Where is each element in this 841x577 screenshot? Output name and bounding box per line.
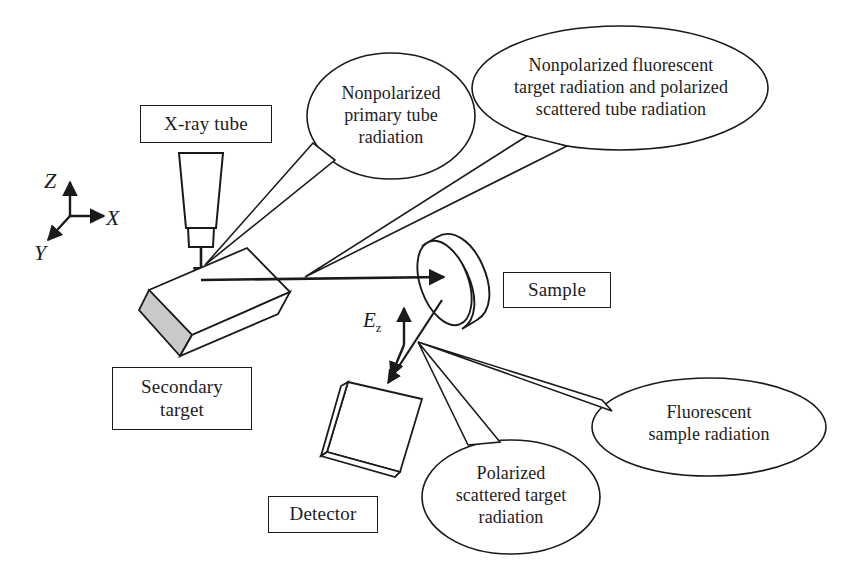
- label-text-secondary-target-line2: target: [160, 399, 204, 420]
- label-text-xray-tube: X-ray tube: [164, 113, 248, 135]
- callout-polarized-tail: [418, 342, 500, 445]
- label-box-xray-tube: X-ray tube: [140, 105, 272, 143]
- callout-primary-tube-radiation: [205, 53, 475, 265]
- xray-tube-housing: [179, 153, 223, 228]
- callout-fluor-target-bubble: [472, 26, 768, 150]
- label-text-secondary-target-line1: Secondary: [141, 376, 223, 397]
- vector-label-ez-symbol: E: [363, 308, 376, 332]
- axis-label-x: X: [106, 205, 119, 231]
- secondary-target-shape: [139, 248, 290, 356]
- xray-tube-snout: [188, 228, 214, 247]
- coordinate-axes: [48, 182, 104, 240]
- label-box-secondary-target: Secondary target: [112, 367, 252, 430]
- callout-polarized-bubble: [422, 440, 600, 554]
- callout-fluor-sample-bubble: [592, 378, 826, 476]
- vector-label-ez-subscript: z: [376, 320, 382, 335]
- vector-label-ez: Ez: [363, 308, 382, 336]
- ez-polarization-vector: [391, 308, 404, 376]
- label-box-detector: Detector: [268, 496, 378, 533]
- axis-label-z: Z: [44, 168, 56, 194]
- label-text-secondary-target: Secondary target: [141, 376, 223, 421]
- label-text-sample: Sample: [528, 279, 586, 301]
- callout-primary-tail: [205, 143, 335, 265]
- detector-shape: [321, 382, 422, 477]
- label-box-sample: Sample: [503, 272, 611, 308]
- axis-y-arrow: [48, 216, 70, 240]
- label-text-detector: Detector: [289, 503, 356, 525]
- axis-label-y: Y: [34, 240, 46, 266]
- sample-shape: [407, 233, 489, 332]
- diagram-svg: [0, 0, 841, 577]
- figure-canvas: X-ray tube Sample Detector Secondary tar…: [0, 0, 841, 577]
- xray-tube-body: [179, 153, 223, 247]
